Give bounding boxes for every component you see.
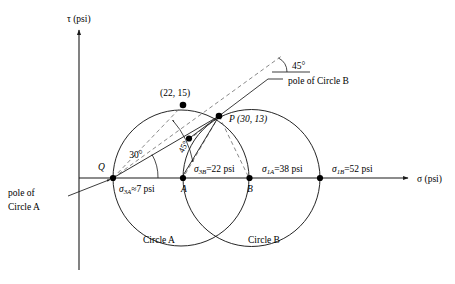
circle-a-label: Circle A (143, 235, 175, 245)
sigma1a-label-group: σ1A=38 psi (262, 164, 303, 175)
svg-text:σ1A=38 psi: σ1A=38 psi (262, 164, 303, 175)
point-B-dot (246, 175, 252, 181)
point-A-dot (180, 175, 186, 181)
svg-text:σ3A≈7 psi: σ3A≈7 psi (119, 184, 155, 195)
pole-a-leader-line (68, 180, 110, 197)
tau-axis-label: τ (psi) (67, 14, 91, 25)
angle-arc-30 (152, 155, 158, 179)
sigma3a-value: ≈7 psi (131, 184, 155, 194)
sigma-axis-label: σ (psi) (417, 174, 442, 185)
svg-text:σ3B=22 psi: σ3B=22 psi (194, 164, 235, 175)
angle-arc-45-outer (279, 58, 288, 72)
figure-canvas: τ (psi) σ (psi) (22, 15) P (30, 13) Q A … (0, 0, 455, 284)
svg-text:σ1B=52 psi: σ1B=52 psi (332, 164, 373, 175)
sigma3b-value: =22 psi (206, 164, 235, 174)
circle-b-label: Circle B (248, 235, 280, 245)
point-22-15-label: (22, 15) (160, 88, 190, 99)
point-Q-label: Q (98, 162, 105, 172)
sigma1b-subscript: 1B (337, 168, 345, 175)
point-B-label: B (247, 184, 253, 194)
pole-a-label-line1: pole of (8, 188, 35, 198)
angle-30-label: 30° (129, 150, 143, 160)
point-22-15-dot (180, 102, 187, 109)
point-A-label: A (180, 184, 187, 194)
pole-a-label-line2: Circle A (8, 202, 40, 212)
angle-45-outer-label: 45° (292, 61, 306, 71)
sigma1b-label-group: σ1B=52 psi (332, 164, 373, 175)
point-P-dot (216, 113, 223, 120)
point-P-label: P (30, 13) (228, 114, 267, 125)
pole-b-label: pole of Circle B (288, 76, 349, 86)
point-Q-dot (110, 175, 116, 181)
mohr-circle-figure: τ (psi) σ (psi) (22, 15) P (30, 13) Q A … (0, 0, 455, 284)
point-sigma1b-dot (317, 175, 323, 181)
point-inner-dot (186, 135, 192, 141)
sigma3b-subscript: 3B (198, 168, 207, 175)
sigma3b-label-group: σ3B=22 psi (194, 164, 235, 175)
sigma3a-label-group: σ3A≈7 psi (119, 184, 155, 195)
sigma1b-value: =52 psi (344, 164, 373, 174)
sigma1a-value: =38 psi (274, 164, 303, 174)
